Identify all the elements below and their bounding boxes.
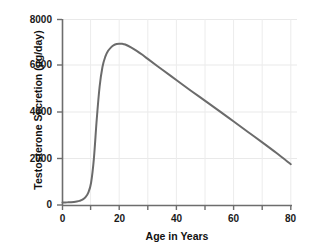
x-tick-label-0: 0 (47, 213, 78, 224)
y-tick-label-2000: 2000 (4, 153, 52, 164)
chart-figure: 8000 6000 4000 2000 0 0 20 40 60 80 Test… (0, 0, 311, 249)
x-tick-label-60: 60 (218, 213, 249, 224)
x-tick-label-80: 80 (275, 213, 306, 224)
x-axis-title: Age in Years (62, 230, 292, 242)
x-tick-label-40: 40 (161, 213, 192, 224)
y-tick-label-8000: 8000 (4, 14, 52, 25)
y-tick-label-6000: 6000 (4, 59, 52, 70)
y-axis-title: Testosterone Secretion (µg/day) (32, 10, 44, 210)
y-tick-label-0: 0 (4, 199, 52, 210)
x-tick-label-20: 20 (104, 213, 135, 224)
y-axis-ticks (57, 20, 62, 206)
y-tick-label-4000: 4000 (4, 106, 52, 117)
chart-plot-area (0, 0, 311, 249)
